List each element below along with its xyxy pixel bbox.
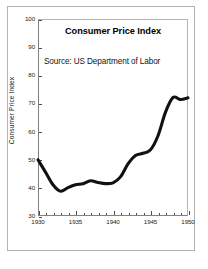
y-tick-label: 90 bbox=[28, 44, 35, 50]
x-tick-label: 1940 bbox=[106, 219, 119, 225]
y-tick-label: 50 bbox=[28, 157, 35, 163]
y-axis-tick-labels: 30405060708090100 bbox=[18, 19, 35, 216]
data-line-svg bbox=[38, 19, 188, 216]
cpi-line-series bbox=[38, 97, 188, 191]
y-tick-label: 70 bbox=[28, 100, 35, 106]
chart-figure: 30405060708090100 19301935194019451950 C… bbox=[0, 0, 208, 269]
x-tick-label: 1945 bbox=[144, 219, 157, 225]
y-axis-title: Consumer Price Index bbox=[8, 51, 15, 171]
y-tick-label: 40 bbox=[28, 185, 35, 191]
y-tick-label: 80 bbox=[28, 72, 35, 78]
x-tick-label: 1935 bbox=[69, 219, 82, 225]
x-tick-label: 1950 bbox=[181, 219, 194, 225]
y-tick-label: 60 bbox=[28, 129, 35, 135]
x-axis-tick-labels: 19301935194019451950 bbox=[38, 219, 188, 231]
x-tick-mark-major bbox=[189, 211, 190, 215]
x-tick-label: 1930 bbox=[31, 219, 44, 225]
y-tick-label: 100 bbox=[25, 16, 35, 22]
